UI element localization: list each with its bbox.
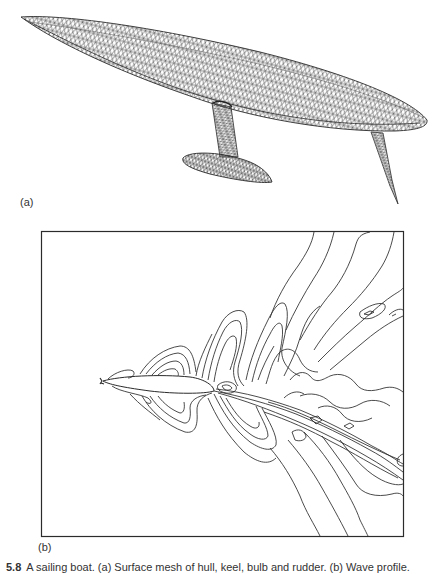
caption-number: 5.8 — [6, 561, 21, 573]
wave-contour-plot — [42, 232, 404, 537]
caption-text: A sailing boat. (a) Surface mesh of hull… — [26, 561, 410, 573]
figure: (a) (b) 5.8A sailing boat. (a) Surface m… — [0, 0, 444, 574]
rudder-mesh — [371, 132, 398, 204]
figure-artwork — [0, 0, 444, 574]
figure-caption: 5.8A sailing boat. (a) Surface mesh of h… — [6, 561, 410, 573]
panel-label-b: (b) — [38, 541, 51, 553]
bulb-mesh — [183, 153, 272, 182]
plot-frame — [42, 232, 404, 537]
panel-label-a: (a) — [20, 196, 33, 208]
